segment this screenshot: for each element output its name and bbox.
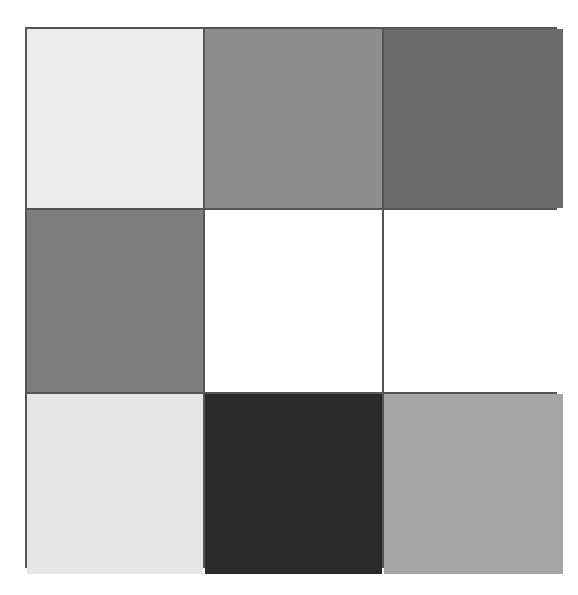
grid-cell-r1-c0 (27, 210, 203, 392)
grayscale-grid (25, 27, 557, 568)
grid-cell-r1-c1 (205, 210, 382, 392)
grid-cell-r0-c0 (27, 29, 203, 208)
grid-cell-r2-c2 (384, 394, 563, 574)
grid-cell-r1-c2 (384, 210, 563, 392)
grid-cell-r2-c0 (27, 394, 203, 574)
grid-cell-r2-c1 (205, 394, 382, 574)
grid-cell-r0-c1 (205, 29, 382, 208)
grid-cell-r0-c2 (384, 29, 563, 208)
